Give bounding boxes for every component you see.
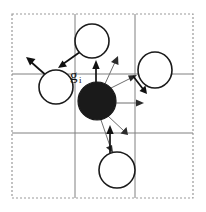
figure-container: g i	[0, 0, 206, 212]
label-gi-base: g	[70, 67, 78, 83]
agent-circle-right	[138, 52, 172, 88]
agent-circle-bottom	[99, 152, 135, 188]
grid-neighborhood-diagram: g i	[0, 0, 206, 212]
agent-circle-left	[39, 70, 73, 104]
agent-circle-center	[78, 82, 116, 120]
agent-circle-top	[75, 24, 109, 58]
